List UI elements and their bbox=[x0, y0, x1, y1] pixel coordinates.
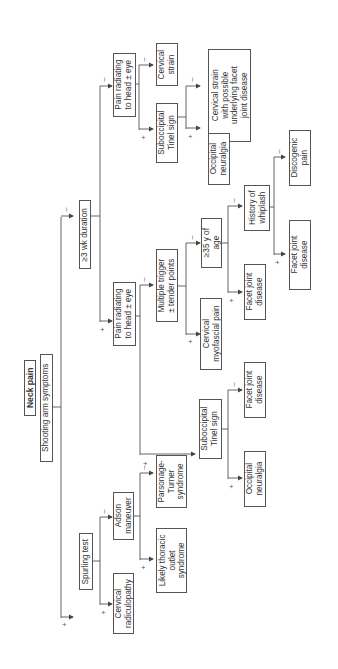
node-shooting-arm-symptoms: Shooting arm symptoms bbox=[40, 354, 53, 462]
node-pain-radiating-top: Pain radiating to head ± eye bbox=[113, 53, 136, 117]
node-spurling-test: Spurling test bbox=[79, 533, 93, 590]
plus-label: + bbox=[187, 134, 194, 138]
node-facet-subocc: Facet joint disease bbox=[244, 362, 266, 418]
node-facet-age: Facet joint disease bbox=[244, 264, 266, 320]
plus-label: + bbox=[228, 484, 235, 488]
plus-label: + bbox=[99, 327, 106, 331]
node-occipital-neuralgia-top: Occipital neuralgia bbox=[208, 133, 230, 185]
minus-label: – bbox=[140, 278, 147, 282]
plus-label: + bbox=[187, 339, 194, 343]
node-whiplash: History of whiplash bbox=[244, 185, 270, 231]
node-cervical-strain-facet: Cervical strain with possible underlying… bbox=[208, 49, 251, 142]
minus-label: – bbox=[100, 510, 107, 514]
plus-label: + bbox=[61, 622, 68, 626]
plus-label: + bbox=[228, 298, 235, 302]
node-pain-radiating-mid: Pain radiating to head ± eye bbox=[113, 282, 136, 346]
node-duration: ≥3 wk duration bbox=[79, 200, 91, 269]
node-suboccipital-top: Suboccipital Tinel sign bbox=[156, 103, 178, 163]
minus-label: – bbox=[230, 383, 237, 387]
node-suboccipital-mid: Suboccipital Tinel sign bbox=[199, 399, 222, 459]
node-multiple-trigger: Multiple trigger ± tender points bbox=[156, 249, 178, 322]
node-adson-maneuver: Adson maneuver bbox=[113, 492, 134, 540]
node-neck-pain: Neck pain bbox=[24, 360, 36, 416]
node-cervical-radiculopathy: Cervical radiculopathy bbox=[113, 573, 134, 634]
node-thoracic-outlet: Likely thoracic outlet syndrome bbox=[156, 528, 187, 593]
minus-label: – bbox=[275, 150, 282, 154]
plus-label: + bbox=[100, 610, 107, 614]
node-occipital-neuralgia-mid: Occipital neuralgia bbox=[244, 451, 266, 507]
minus-label: – bbox=[188, 78, 195, 82]
minus-label: – bbox=[100, 78, 107, 82]
node-parsonage-turner: Parsonage- Turner syndrome bbox=[156, 455, 187, 508]
plus-label: + bbox=[140, 565, 147, 569]
node-facet-whiplash: Facet joint disease bbox=[289, 220, 311, 290]
plus-label: + bbox=[274, 260, 281, 264]
node-cervical-strain: Cervical strain bbox=[156, 43, 178, 86]
minus-label: – bbox=[62, 208, 69, 212]
node-discogenic-pain: Discogenic pain bbox=[289, 130, 311, 186]
minus-label: – bbox=[188, 236, 195, 240]
minus-label: – bbox=[140, 466, 147, 470]
plus-label: + bbox=[140, 135, 147, 139]
node-myofascial: Cervical myofascial pain bbox=[200, 298, 222, 370]
minus-label: – bbox=[140, 58, 147, 62]
minus-label: – bbox=[230, 199, 237, 203]
node-age-35: ≥35 y of age bbox=[201, 218, 222, 268]
